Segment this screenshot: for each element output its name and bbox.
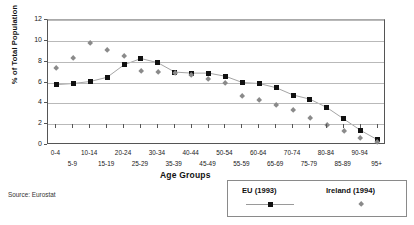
x-tick-mark [106, 124, 107, 128]
square-data-point [240, 80, 245, 85]
square-data-point [307, 97, 312, 102]
x-tick-label: 40-44 [175, 149, 207, 156]
gridline [48, 41, 384, 42]
x-tick-label: 85-89 [327, 160, 359, 167]
x-tick-mark [241, 124, 242, 128]
legend-marker-eu [246, 204, 294, 205]
x-tick-label: 90-94 [344, 149, 376, 156]
x-tick-label: 35-39 [158, 160, 190, 167]
x-tick-mark [292, 124, 293, 128]
x-tick-label: 60-64 [242, 149, 274, 156]
x-tick-mark [157, 124, 158, 128]
source-note: Source: Eurostat [8, 191, 56, 198]
x-tick-label: 0-4 [39, 149, 71, 156]
chart-legend: EU (1993) Ireland (1994) [227, 180, 407, 217]
gridline [48, 83, 384, 84]
y-axis-title: % of Total Population [10, 0, 19, 105]
y-tick-label: 4 [22, 98, 42, 105]
y-tick-mark [44, 144, 47, 145]
x-tick-mark [343, 124, 344, 128]
x-tick-mark [258, 124, 259, 128]
square-data-point [274, 85, 279, 90]
x-tick-mark [309, 124, 310, 128]
x-tick-mark [208, 124, 209, 128]
y-tick-label: 2 [22, 119, 42, 126]
square-data-point [223, 74, 228, 79]
x-tick-mark [123, 124, 124, 128]
x-tick-label: 25-29 [124, 160, 156, 167]
square-data-point [54, 82, 59, 87]
x-tick-label: 15-19 [90, 160, 122, 167]
x-tick-mark [72, 124, 73, 128]
square-data-point [257, 81, 262, 86]
x-tick-mark [326, 124, 327, 128]
square-data-point [88, 79, 93, 84]
x-tick-mark [360, 124, 361, 128]
x-tick-label: 50-54 [208, 149, 240, 156]
legend-label-ireland: Ireland (1994) [326, 186, 375, 195]
x-tick-label: 30-34 [141, 149, 173, 156]
square-data-point [358, 128, 363, 133]
x-tick-label: 5-9 [56, 160, 88, 167]
x-tick-mark [55, 124, 56, 128]
square-data-point [105, 75, 110, 80]
square-data-point [138, 56, 143, 61]
y-tick-label: 12 [22, 15, 42, 22]
diamond-marker-icon [358, 201, 364, 207]
x-tick-label: 80-84 [310, 149, 342, 156]
x-tick-label: 55-59 [225, 160, 257, 167]
square-data-point [71, 81, 76, 86]
gridline [48, 62, 384, 63]
gridline [48, 103, 384, 104]
square-data-point [291, 93, 296, 98]
square-data-point [341, 116, 346, 121]
y-tick-label: 6 [22, 78, 42, 85]
plot-area [47, 19, 385, 144]
y-tick-label: 10 [22, 36, 42, 43]
y-tick-label: 8 [22, 57, 42, 64]
x-axis-title: Age Groups [160, 170, 211, 180]
x-tick-label: 45-49 [192, 160, 224, 167]
square-data-point [155, 60, 160, 65]
x-tick-label: 10-14 [73, 149, 105, 156]
x-tick-mark [174, 124, 175, 128]
square-data-point [324, 105, 329, 110]
legend-label-eu: EU (1993) [242, 186, 277, 195]
x-tick-mark [224, 124, 225, 128]
x-tick-label: 95+ [361, 160, 393, 167]
x-tick-label: 65-69 [259, 160, 291, 167]
x-tick-mark [191, 124, 192, 128]
x-tick-mark [140, 124, 141, 128]
y-tick-label: 0 [22, 140, 42, 147]
gridline [48, 124, 384, 125]
x-tick-mark [377, 124, 378, 128]
chart-figure: % of Total Population 024681012 0-45-910… [0, 0, 414, 225]
x-tick-mark [275, 124, 276, 128]
square-data-point [206, 71, 211, 76]
x-tick-mark [89, 124, 90, 128]
gridline [48, 20, 384, 21]
x-tick-label: 75-79 [293, 160, 325, 167]
square-data-point [122, 62, 127, 67]
x-tick-label: 20-24 [107, 149, 139, 156]
x-tick-label: 70-74 [276, 149, 308, 156]
square-marker-icon [268, 202, 273, 207]
